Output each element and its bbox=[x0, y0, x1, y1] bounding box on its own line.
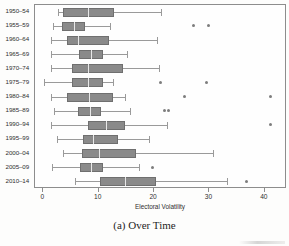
y-tick-label: 1980–84 bbox=[6, 93, 29, 99]
x-tick-label: 20 bbox=[149, 193, 156, 200]
figure-caption: (a) Over Time bbox=[0, 219, 289, 231]
boxplot-row bbox=[35, 175, 287, 188]
whisker-cap-low bbox=[51, 122, 52, 129]
whisker-cap-low bbox=[51, 51, 52, 58]
whisker-cap-high bbox=[213, 150, 214, 157]
outlier-point bbox=[151, 166, 154, 169]
x-tick-label: 30 bbox=[205, 193, 212, 200]
whisker-low bbox=[51, 40, 67, 41]
boxplot-row bbox=[35, 76, 287, 89]
whisker-cap-high bbox=[149, 136, 150, 143]
y-tick-label: 1965–69 bbox=[6, 50, 29, 56]
boxplot-row bbox=[35, 133, 287, 146]
whisker-low bbox=[75, 181, 100, 182]
whisker-high bbox=[109, 40, 158, 41]
median-line bbox=[99, 149, 100, 158]
whisker-high bbox=[118, 139, 149, 140]
whisker-low bbox=[51, 97, 68, 98]
whisker-high bbox=[113, 97, 126, 98]
outlier-point bbox=[167, 109, 170, 112]
whisker-low bbox=[53, 26, 62, 27]
y-axis: 1950–541955–591960–641965–691970–741975–… bbox=[0, 4, 32, 188]
y-tick-label: 2010–14 bbox=[6, 178, 29, 184]
plot-area bbox=[34, 4, 286, 188]
x-tick-label: 0 bbox=[40, 193, 44, 200]
x-tick-mark bbox=[208, 188, 209, 192]
boxplot-row bbox=[35, 20, 287, 33]
whisker-high bbox=[101, 111, 130, 112]
median-line bbox=[88, 64, 89, 73]
whisker-high bbox=[123, 68, 159, 69]
whisker-cap-high bbox=[110, 23, 111, 30]
boxplot-row bbox=[35, 119, 287, 132]
median-line bbox=[89, 93, 90, 102]
whisker-cap-low bbox=[44, 79, 45, 86]
boxplot-row bbox=[35, 62, 287, 75]
outlier-point bbox=[183, 95, 186, 98]
outlier-point bbox=[192, 24, 195, 27]
whisker-cap-low bbox=[58, 9, 59, 16]
outlier-point bbox=[163, 109, 166, 112]
median-line bbox=[90, 107, 91, 116]
whisker-cap-high bbox=[127, 51, 128, 58]
y-tick-label: 1990–94 bbox=[6, 121, 29, 127]
boxplot-figure: 1950–541955–591960–641965–691970–741975–… bbox=[0, 0, 289, 246]
boxplot-row bbox=[35, 91, 287, 104]
boxplot-row bbox=[35, 48, 287, 61]
whisker-high bbox=[156, 181, 227, 182]
x-tick-mark bbox=[98, 188, 99, 192]
y-tick-label: 1955–59 bbox=[6, 22, 29, 28]
whisker-low bbox=[51, 125, 88, 126]
whisker-high bbox=[114, 12, 161, 13]
whisker-cap-low bbox=[51, 94, 52, 101]
whisker-cap-low bbox=[63, 150, 64, 157]
median-line bbox=[106, 121, 107, 130]
y-tick-label: 1985–89 bbox=[6, 107, 29, 113]
whisker-cap-low bbox=[52, 164, 53, 171]
whisker-low bbox=[63, 153, 81, 154]
whisker-cap-high bbox=[159, 65, 160, 72]
x-tick-label: 40 bbox=[260, 193, 267, 200]
whisker-cap-low bbox=[57, 136, 58, 143]
boxplot-row bbox=[35, 105, 287, 118]
scan-artifact bbox=[239, 241, 285, 244]
y-tick-label: 1970–74 bbox=[6, 65, 29, 71]
whisker-cap-high bbox=[161, 9, 162, 16]
boxplot-row bbox=[35, 34, 287, 47]
whisker-high bbox=[103, 82, 113, 83]
whisker-cap-high bbox=[125, 94, 126, 101]
y-tick-label: 1975–79 bbox=[6, 79, 29, 85]
whisker-high bbox=[103, 167, 139, 168]
median-line bbox=[125, 177, 126, 186]
boxplot-row bbox=[35, 161, 287, 174]
outlier-point bbox=[159, 81, 162, 84]
whisker-high bbox=[125, 125, 167, 126]
whisker-low bbox=[51, 54, 80, 55]
whisker-low bbox=[51, 68, 71, 69]
whisker-low bbox=[54, 111, 78, 112]
y-tick-label: 1995–99 bbox=[6, 135, 29, 141]
y-tick-label: 2005–09 bbox=[6, 164, 29, 170]
whisker-low bbox=[52, 167, 80, 168]
box-iqr bbox=[100, 177, 155, 186]
median-line bbox=[74, 22, 75, 31]
box-iqr bbox=[82, 149, 137, 158]
box-iqr bbox=[83, 135, 118, 144]
whisker-low bbox=[44, 82, 72, 83]
x-tick-label: 10 bbox=[94, 193, 101, 200]
whisker-high bbox=[136, 153, 212, 154]
median-line bbox=[93, 135, 94, 144]
whisker-cap-high bbox=[157, 37, 158, 44]
x-axis-title: Electoral Volatility bbox=[34, 203, 286, 210]
median-line bbox=[88, 78, 89, 87]
whisker-high bbox=[85, 26, 110, 27]
y-tick-label: 1950–54 bbox=[6, 8, 29, 14]
whisker-cap-low bbox=[51, 37, 52, 44]
whisker-cap-high bbox=[167, 122, 168, 129]
y-tick-label: 1960–64 bbox=[6, 36, 29, 42]
outlier-point bbox=[269, 95, 272, 98]
whisker-cap-high bbox=[139, 164, 140, 171]
x-tick-mark bbox=[153, 188, 154, 192]
x-tick-mark bbox=[264, 188, 265, 192]
median-line bbox=[91, 50, 92, 59]
